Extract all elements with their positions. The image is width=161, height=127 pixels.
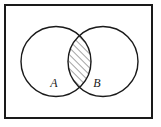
set-label-a: A (49, 76, 58, 90)
venn-diagram-figure: A B (0, 0, 161, 127)
venn-diagram-canvas: A B (0, 0, 161, 127)
set-label-b: B (93, 76, 101, 90)
